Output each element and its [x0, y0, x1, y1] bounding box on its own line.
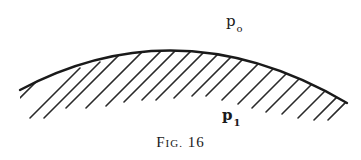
label-p1-subscript: 1 — [234, 117, 241, 128]
label-p0-symbol: p — [226, 12, 236, 30]
label-p0: po — [226, 14, 243, 32]
label-p1-symbol: p — [222, 106, 233, 124]
caption-number: 16 — [188, 134, 205, 150]
caption-smallcaps: IG. — [166, 137, 183, 149]
caption-prefix: F — [156, 134, 165, 150]
label-p1: p1 — [222, 108, 240, 126]
figure-caption: FIG. 16 — [0, 134, 361, 151]
label-p0-subscript: o — [237, 23, 243, 34]
